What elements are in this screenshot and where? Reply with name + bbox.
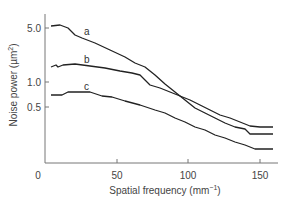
curve-b bbox=[51, 64, 273, 127]
x-axis-label: Spatial frequency (mm−1) bbox=[109, 184, 220, 196]
y-tick-label-1: 1.0 bbox=[27, 77, 41, 88]
y-axis-label-end: ) bbox=[8, 43, 19, 46]
x-axis-label-end: ) bbox=[217, 185, 220, 196]
y-tick-label-05: 0.5 bbox=[27, 102, 41, 113]
curve-label-c: c bbox=[84, 81, 89, 92]
x-axis-label-text: Spatial frequency (mm bbox=[109, 185, 209, 196]
curve-label-b: b bbox=[84, 54, 90, 65]
y-axis-label-text: Noise power (µm bbox=[8, 51, 19, 127]
x-tick-label-100: 100 bbox=[180, 170, 197, 181]
x-tick-label-150: 150 bbox=[252, 170, 269, 181]
curve-c bbox=[51, 92, 273, 149]
curve-label-a: a bbox=[84, 26, 90, 37]
x-axis-label-sup: −1 bbox=[209, 184, 217, 191]
x-tick-label-0: 0 bbox=[35, 170, 41, 181]
x-tick-label-50: 50 bbox=[111, 170, 123, 181]
y-tick-label-5: 5.0 bbox=[27, 23, 41, 34]
curve-a bbox=[51, 25, 273, 134]
y-axis-label: Noise power (µm2) bbox=[7, 43, 19, 126]
noise-power-chart: 5.0 1.0 0.5 0 50 100 150 Spatial frequen… bbox=[0, 0, 291, 205]
